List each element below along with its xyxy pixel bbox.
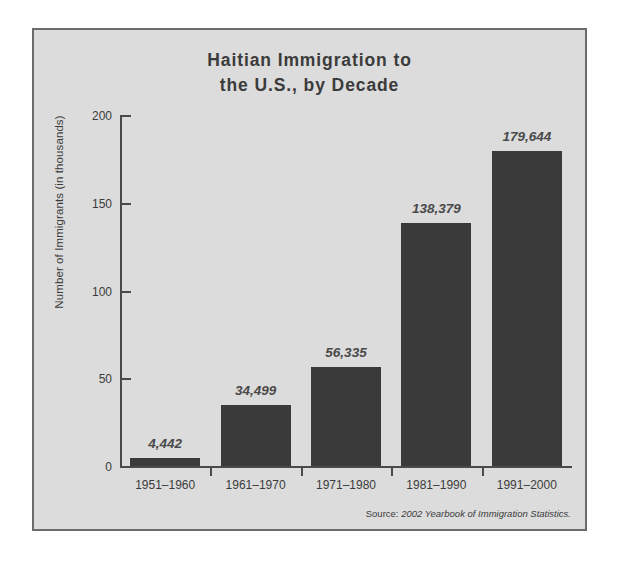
chart-title: Haitian Immigration to the U.S., by Deca… xyxy=(34,48,585,98)
bar-value-label: 4,442 xyxy=(148,436,182,451)
bar: 138,379 xyxy=(401,223,471,466)
x-category-label: 1971–1980 xyxy=(316,478,376,492)
y-tick-label: 100 xyxy=(92,285,112,299)
bar: 56,335 xyxy=(311,367,381,466)
bar-value-label: 56,335 xyxy=(325,345,366,360)
x-tick-mark xyxy=(482,467,484,476)
y-tick-label: 150 xyxy=(92,197,112,211)
x-category-label: 1951–1960 xyxy=(135,478,195,492)
bar-value-label: 34,499 xyxy=(235,383,276,398)
y-tick-label: 200 xyxy=(92,109,112,123)
y-tick-mark xyxy=(122,291,131,293)
x-category-label: 1961–1970 xyxy=(226,478,286,492)
y-tick-mark xyxy=(122,466,131,468)
bar-value-label: 179,644 xyxy=(502,129,551,144)
x-axis-line xyxy=(120,466,572,468)
source-label: Source: xyxy=(366,508,399,519)
x-tick-mark xyxy=(301,467,303,476)
y-tick-mark xyxy=(122,378,131,380)
bar-value-label: 138,379 xyxy=(412,201,461,216)
chart-figure: Haitian Immigration to the U.S., by Deca… xyxy=(32,28,587,531)
bar: 34,499 xyxy=(221,405,291,466)
y-axis-title: Number of Immigrants (in thousands) xyxy=(53,47,65,377)
x-tick-mark xyxy=(210,467,212,476)
y-tick-mark xyxy=(122,203,131,205)
x-category-label: 1981–1990 xyxy=(406,478,466,492)
y-tick-mark xyxy=(122,115,131,117)
plot-area: 050100150200 4,44234,49956,335138,379179… xyxy=(120,115,572,468)
y-tick-label: 0 xyxy=(105,460,112,474)
bar: 4,442 xyxy=(130,458,200,466)
x-tick-mark xyxy=(391,467,393,476)
x-category-label: 1991–2000 xyxy=(497,478,557,492)
source-note: Source: 2002 Yearbook of Immigration Sta… xyxy=(366,508,571,519)
bar: 179,644 xyxy=(492,151,562,466)
y-tick-label: 50 xyxy=(99,372,112,386)
source-text: 2002 Yearbook of Immigration Statistics. xyxy=(401,508,571,519)
